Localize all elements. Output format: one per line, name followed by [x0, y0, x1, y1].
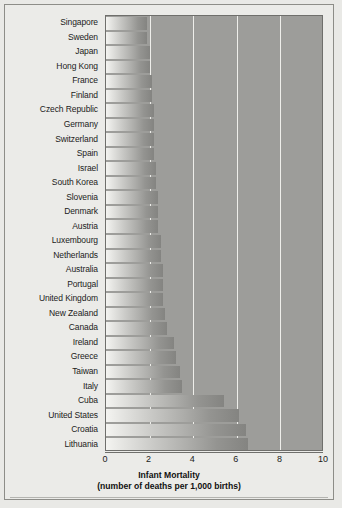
- bar: [106, 380, 182, 393]
- category-label: United Kingdom: [5, 291, 101, 306]
- bar: [106, 438, 248, 451]
- x-tick-label: 10: [318, 454, 328, 464]
- category-label: Greece: [5, 349, 101, 364]
- category-label: Croatia: [5, 422, 101, 437]
- category-label: Japan: [5, 44, 101, 59]
- x-tick-label: 2: [146, 454, 151, 464]
- category-label: Austria: [5, 218, 101, 233]
- bar: [106, 133, 154, 146]
- bar: [106, 250, 161, 263]
- bar-row: [106, 161, 322, 176]
- category-label: Australia: [5, 262, 101, 277]
- bar-row: [106, 394, 322, 409]
- bar: [106, 220, 158, 233]
- category-label: Finland: [5, 88, 101, 103]
- x-tick-label: 6: [233, 454, 238, 464]
- bar: [106, 17, 147, 30]
- bar-row: [106, 234, 322, 249]
- bar-row: [106, 219, 322, 234]
- bar: [106, 104, 154, 117]
- bar-row: [106, 263, 322, 278]
- bar: [106, 293, 163, 306]
- bar: [106, 119, 154, 132]
- bar: [106, 264, 163, 277]
- bar: [106, 424, 246, 437]
- bar: [106, 61, 150, 74]
- bar: [106, 177, 156, 190]
- category-label: France: [5, 73, 101, 88]
- bar-row: [106, 205, 322, 220]
- bar-row: [106, 379, 322, 394]
- bar: [106, 351, 176, 364]
- bar: [106, 32, 147, 45]
- category-label: Italy: [5, 378, 101, 393]
- category-label: Taiwan: [5, 364, 101, 379]
- bar-row: [106, 365, 322, 380]
- bar-row: [106, 190, 322, 205]
- category-label: Germany: [5, 117, 101, 132]
- bar-row: [106, 31, 322, 46]
- category-label: Cuba: [5, 393, 101, 408]
- category-label: Israel: [5, 160, 101, 175]
- category-label: Switzerland: [5, 131, 101, 146]
- category-label: South Korea: [5, 175, 101, 190]
- bar-row: [106, 45, 322, 60]
- bar: [106, 191, 158, 204]
- category-label: Hong Kong: [5, 59, 101, 74]
- bar-row: [106, 103, 322, 118]
- bar: [106, 206, 158, 219]
- category-label: Slovenia: [5, 189, 101, 204]
- bar: [106, 148, 154, 161]
- x-axis-title-line2: (number of deaths per 1,000 births): [9, 481, 329, 491]
- x-axis-title-line1: Infant Mortality: [9, 470, 329, 480]
- category-label: Singapore: [5, 15, 101, 30]
- x-axis-line: [105, 452, 323, 453]
- bar-row: [106, 16, 322, 31]
- bar: [106, 75, 152, 88]
- x-tick-label: 0: [102, 454, 107, 464]
- bar: [106, 409, 239, 422]
- bar-row: [106, 307, 322, 322]
- category-label: Luxembourg: [5, 233, 101, 248]
- bar: [106, 279, 163, 292]
- bar-row: [106, 249, 322, 264]
- bar-row: [106, 408, 322, 423]
- bar-row: [106, 74, 322, 89]
- bar: [106, 235, 161, 248]
- category-axis-labels: SingaporeSwedenJapanHong KongFranceFinla…: [5, 15, 101, 451]
- bar: [106, 162, 156, 175]
- bar-row: [106, 321, 322, 336]
- category-label: Ireland: [5, 335, 101, 350]
- x-tick-label: 4: [190, 454, 195, 464]
- bar-row: [106, 437, 322, 451]
- category-label: Portugal: [5, 277, 101, 292]
- bar: [106, 322, 167, 335]
- category-label: Canada: [5, 320, 101, 335]
- bar-row: [106, 278, 322, 293]
- bar-chart: [105, 15, 323, 451]
- bar-row: [106, 350, 322, 365]
- x-axis-tick-labels: 0246810: [105, 454, 323, 468]
- bar-row: [106, 336, 322, 351]
- plot-area: [105, 15, 323, 451]
- bar-row: [106, 60, 322, 75]
- bar-row: [106, 132, 322, 147]
- bar-row: [106, 147, 322, 162]
- bar-series: [106, 16, 322, 450]
- bar-row: [106, 118, 322, 133]
- chart-frame: SingaporeSwedenJapanHong KongFranceFinla…: [4, 4, 334, 500]
- bar: [106, 337, 174, 350]
- bar: [106, 395, 224, 408]
- bar: [106, 46, 150, 59]
- bottom-rule: [10, 497, 328, 498]
- category-label: Czech Republic: [5, 102, 101, 117]
- category-label: Lithuania: [5, 436, 101, 451]
- category-label: Sweden: [5, 30, 101, 45]
- category-label: New Zealand: [5, 306, 101, 321]
- bar: [106, 308, 165, 321]
- category-label: United States: [5, 407, 101, 422]
- bar: [106, 90, 152, 103]
- category-label: Denmark: [5, 204, 101, 219]
- category-label: Netherlands: [5, 248, 101, 263]
- bar: [106, 366, 180, 379]
